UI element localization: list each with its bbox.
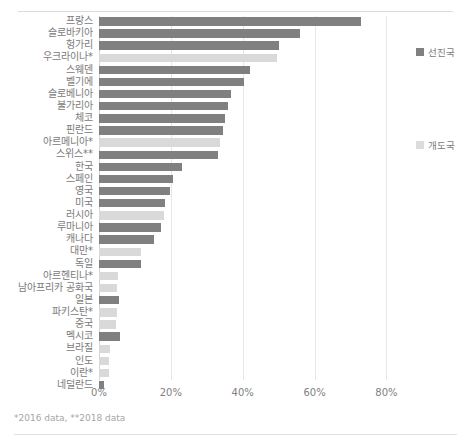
bar-row: 일본 xyxy=(99,295,408,307)
bar-dev xyxy=(99,163,182,171)
bar-ing xyxy=(99,357,109,365)
bar-row: 헝가리 xyxy=(99,40,408,52)
bar-category-label: 아르메니아* xyxy=(43,136,93,148)
bar-category-label: 대만* xyxy=(70,245,93,257)
bar-category-label: 독일 xyxy=(75,258,93,270)
bar-dev xyxy=(99,223,161,231)
bar-category-label: 우크라이나* xyxy=(43,51,93,63)
bar-row: 아르헨티나* xyxy=(99,271,408,283)
x-axis-tick-label: 20% xyxy=(160,387,182,398)
bar-row: 독일 xyxy=(99,259,408,271)
bar-category-label: 루마니아 xyxy=(57,221,93,233)
bar-chart: 프랑스슬로바키아헝가리우크라이나*스웨덴벨기에슬로베니아불가리아체코핀란드아르메… xyxy=(0,16,471,388)
bar-ing xyxy=(99,369,109,377)
legend-label-developed: 선진국 xyxy=(428,45,455,59)
bar-row: 벨기에 xyxy=(99,77,408,89)
bar-row: 대만* xyxy=(99,246,408,258)
bar-row: 캐나다 xyxy=(99,234,408,246)
bar-category-label: 일본 xyxy=(75,294,93,306)
bar-dev xyxy=(99,114,225,122)
bar-category-label: 스페인 xyxy=(66,173,93,185)
bar-category-label: 벨기에 xyxy=(66,76,93,88)
bar-rows: 프랑스슬로바키아헝가리우크라이나*스웨덴벨기에슬로베니아불가리아체코핀란드아르메… xyxy=(99,16,408,380)
top-divider xyxy=(18,11,453,12)
bar-row: 한국 xyxy=(99,162,408,174)
bar-category-label: 아르헨티나* xyxy=(43,270,93,282)
bar-category-label: 러시아 xyxy=(66,209,93,221)
bar-category-label: 중국 xyxy=(75,318,93,330)
bar-category-label: 프랑스 xyxy=(66,15,93,27)
bar-dev xyxy=(99,66,250,74)
bar-category-label: 멕시코 xyxy=(66,330,93,342)
bar-row: 인도 xyxy=(99,356,408,368)
x-axis: 0%20%40%60%80% xyxy=(99,382,408,402)
bar-category-label: 스위스** xyxy=(56,148,93,160)
x-axis-tick-label: 60% xyxy=(303,387,325,398)
bar-category-label: 핀란드 xyxy=(66,124,93,136)
bar-dev xyxy=(99,235,154,243)
bar-row: 미국 xyxy=(99,198,408,210)
plot-area: 프랑스슬로바키아헝가리우크라이나*스웨덴벨기에슬로베니아불가리아체코핀란드아르메… xyxy=(99,16,408,380)
bar-dev xyxy=(99,78,244,86)
x-axis-tick-label: 0% xyxy=(91,387,107,398)
bar-row: 스웨덴 xyxy=(99,65,408,77)
bar-dev xyxy=(99,296,119,304)
bar-ing xyxy=(99,211,164,219)
bar-ing xyxy=(99,308,117,316)
bar-dev xyxy=(99,175,173,183)
bar-ing xyxy=(99,284,117,292)
bar-row: 루마니아 xyxy=(99,222,408,234)
bar-row: 아르메니아* xyxy=(99,137,408,149)
bar-ing xyxy=(99,320,116,328)
bar-row: 중국 xyxy=(99,319,408,331)
bar-row: 슬로바키아 xyxy=(99,28,408,40)
bar-row: 프랑스 xyxy=(99,16,408,28)
x-axis-tick-label: 80% xyxy=(375,387,397,398)
bar-category-label: 영국 xyxy=(75,185,93,197)
bar-category-label: 파키스탄* xyxy=(52,306,93,318)
bar-dev xyxy=(99,41,279,49)
x-axis-tick-label: 40% xyxy=(232,387,254,398)
bar-row: 스페인 xyxy=(99,174,408,186)
bar-category-label: 한국 xyxy=(75,161,93,173)
bar-row: 남아프리카 공화국 xyxy=(99,283,408,295)
bar-category-label: 스웨덴 xyxy=(66,64,93,76)
bar-category-label: 인도 xyxy=(75,355,93,367)
bar-row: 스위스** xyxy=(99,149,408,161)
bar-ing xyxy=(99,138,220,146)
bar-dev xyxy=(99,102,228,110)
bar-dev xyxy=(99,126,223,134)
bar-dev xyxy=(99,260,141,268)
bar-row: 브라질 xyxy=(99,343,408,355)
bar-row: 러시아 xyxy=(99,210,408,222)
legend-swatch-developing-icon xyxy=(416,141,424,149)
bar-dev xyxy=(99,332,120,340)
bar-dev xyxy=(99,187,170,195)
bar-category-label: 미국 xyxy=(75,197,93,209)
bar-row: 멕시코 xyxy=(99,331,408,343)
bar-category-label: 이란* xyxy=(70,367,93,379)
legend-item-developed: 선진국 xyxy=(416,45,455,59)
bar-category-label: 헝가리 xyxy=(66,39,93,51)
bar-ing xyxy=(99,248,141,256)
bar-ing xyxy=(99,272,118,280)
bar-dev xyxy=(99,17,361,25)
bottom-divider xyxy=(14,434,457,435)
bar-category-label: 슬로바키아 xyxy=(48,27,93,39)
bar-row: 파키스탄* xyxy=(99,307,408,319)
legend-item-developing: 개도국 xyxy=(416,138,455,152)
bar-dev xyxy=(99,199,165,207)
bar-category-label: 브라질 xyxy=(66,342,93,354)
legend-swatch-developed-icon xyxy=(416,48,424,56)
bar-row: 우크라이나* xyxy=(99,52,408,64)
legend-label-developing: 개도국 xyxy=(428,138,455,152)
bar-category-label: 네덜란드 xyxy=(57,379,93,391)
bar-row: 불가리아 xyxy=(99,101,408,113)
bar-row: 핀란드 xyxy=(99,125,408,137)
bar-category-label: 남아프리카 공화국 xyxy=(18,282,93,294)
bar-dev xyxy=(99,151,218,159)
bar-category-label: 슬로베니아 xyxy=(48,88,93,100)
bar-category-label: 불가리아 xyxy=(57,100,93,112)
chart-footnote: *2016 data, **2018 data xyxy=(14,413,125,423)
bar-category-label: 캐나다 xyxy=(66,233,93,245)
